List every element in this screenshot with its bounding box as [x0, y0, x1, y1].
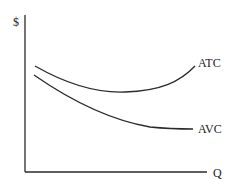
avc-curve — [34, 75, 193, 129]
x-axis-label: Q — [213, 166, 222, 180]
avc-label: AVC — [198, 122, 222, 136]
y-axis-label: $ — [13, 15, 19, 29]
atc-curve — [35, 66, 195, 92]
cost-curves-chart: $ Q ATC AVC — [0, 0, 232, 186]
atc-label: ATC — [198, 56, 221, 70]
chart-canvas: $ Q ATC AVC — [0, 0, 232, 186]
